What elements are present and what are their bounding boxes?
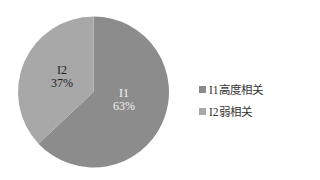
legend-label-i2: I2弱相关 <box>209 103 252 119</box>
legend-swatch-i2 <box>199 108 206 115</box>
legend: I1高度相关 I2弱相关 <box>199 78 263 122</box>
slice-i1-value: 63% <box>104 100 144 113</box>
legend-item-i2: I2弱相关 <box>199 100 263 122</box>
legend-swatch-i1 <box>199 86 206 93</box>
legend-label-i1: I1高度相关 <box>209 81 263 97</box>
slice-label-i1: I1 63% <box>104 87 144 113</box>
slice-i2-value: 37% <box>42 77 82 90</box>
legend-item-i1: I1高度相关 <box>199 78 263 100</box>
slice-label-i2: I2 37% <box>42 64 82 90</box>
